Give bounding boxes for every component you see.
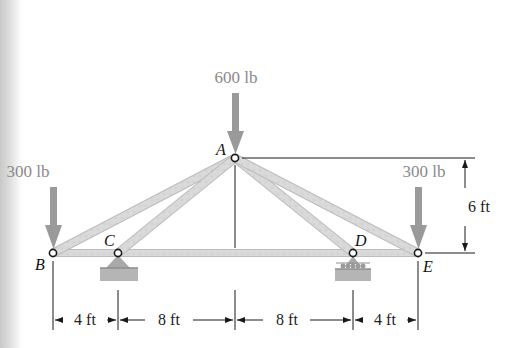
load-label-A: 600 lb: [215, 68, 258, 87]
joint-label-C: C: [104, 232, 115, 249]
load-arrow-B: [45, 187, 62, 249]
joint-D: [349, 249, 356, 256]
pin-support-C: [100, 255, 138, 281]
dim-label-DE: 4 ft: [374, 311, 396, 328]
load-arrow-E: [410, 187, 427, 249]
load-arrow-A: [227, 93, 244, 154]
dim-label-BC: 4 ft: [74, 311, 96, 328]
joint-C: [114, 249, 121, 256]
load-label-B: 300 lb: [7, 162, 50, 181]
joint-label-E: E: [422, 258, 433, 275]
joint-A: [231, 154, 238, 161]
joint-label-A: A: [215, 141, 226, 158]
joint-label-B: B: [35, 256, 45, 273]
joint-label-D: D: [354, 232, 367, 249]
dim-label-height: 6 ft: [468, 198, 490, 215]
joint-E: [414, 249, 421, 256]
dim-label-AD: 8 ft: [276, 311, 298, 328]
load-label-E: 300 lb: [403, 162, 446, 181]
truss-diagram: 600 lb 300 lb 300 lb A B C D E 4 ft 8 ft…: [0, 0, 505, 348]
roller-support-D: [335, 256, 371, 281]
dim-label-CA: 8 ft: [158, 311, 180, 328]
joint-B: [49, 249, 56, 256]
